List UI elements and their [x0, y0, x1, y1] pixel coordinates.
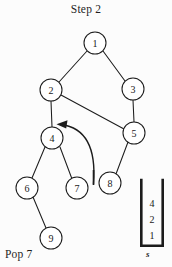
stack-name-label: s [146, 249, 150, 259]
node-label: 8 [108, 178, 113, 189]
graph-node-8[interactable]: 8 [99, 172, 121, 194]
edge-5-8 [116, 142, 128, 174]
graph-node-2[interactable]: 2 [40, 79, 62, 101]
graph-node-7[interactable]: 7 [66, 177, 88, 199]
graph-node-5[interactable]: 5 [123, 122, 145, 144]
graph-node-3[interactable]: 3 [122, 78, 144, 100]
graph-node-1[interactable]: 1 [84, 32, 106, 54]
edge-4-6 [32, 147, 45, 178]
node-label: 5 [132, 128, 137, 139]
node-label: 7 [75, 183, 80, 194]
stack-item: 4 [150, 198, 155, 209]
edge-3-5 [133, 100, 134, 122]
graph-node-9[interactable]: 9 [40, 227, 62, 249]
node-label: 9 [49, 233, 54, 244]
stack-item: 1 [150, 230, 155, 241]
graph-node-4[interactable]: 4 [41, 127, 63, 149]
edge-6-9 [33, 197, 46, 228]
stack-widget[interactable]: 4 2 1 [141, 180, 162, 246]
edge-4-7 [60, 147, 72, 179]
node-label: 6 [25, 183, 30, 194]
edge-2-5 [61, 95, 124, 129]
stack-item: 2 [150, 214, 155, 225]
graph-nodes: 1 2 3 4 5 6 7 [16, 32, 145, 249]
edge-1-2 [59, 51, 87, 82]
node-label: 4 [50, 133, 55, 144]
pop-arrow-curve [61, 125, 94, 185]
pop-arrow-head [57, 120, 68, 128]
edge-2-4 [51, 101, 52, 127]
edge-1-3 [103, 51, 125, 81]
node-label: 2 [49, 85, 54, 96]
graph-canvas: 1 2 3 4 5 6 7 [0, 0, 172, 267]
graph-node-6[interactable]: 6 [16, 177, 38, 199]
figure-caption: Pop 7 [5, 248, 33, 260]
node-label: 1 [93, 38, 98, 49]
figure-root: Step 2 1 2 [0, 0, 172, 267]
node-label: 3 [131, 84, 136, 95]
